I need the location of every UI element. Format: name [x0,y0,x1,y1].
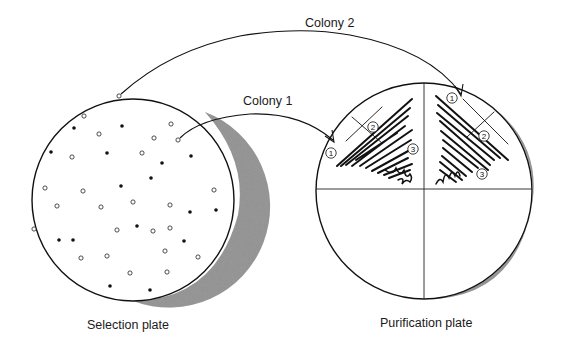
open-colony [176,138,180,142]
svg-text:2: 2 [482,132,487,141]
purification-plate-label: Purification plate [380,316,472,330]
marker-1-colony-2: 1 [447,93,457,103]
open-colony [152,136,156,140]
open-colony [79,256,83,260]
selection-plate [32,94,270,308]
open-colony [115,228,119,232]
open-colony [117,94,121,98]
open-colony [70,155,74,159]
filled-colony [108,284,112,288]
filled-colony [148,288,152,292]
filled-colony [49,150,53,154]
filled-colony [120,124,124,128]
filled-colony [57,238,61,242]
svg-text:3: 3 [411,145,416,154]
open-colony [82,114,86,118]
open-colony [169,122,173,126]
svg-text:1: 1 [450,94,455,103]
open-colony [168,226,172,230]
purification-plate: 1 2 3 1 2 [312,80,540,302]
open-colony [212,188,216,192]
marker-3-colony-1: 3 [408,144,418,154]
open-colony [151,229,155,233]
marker-2-colony-1: 2 [368,122,378,132]
colony-1-label: Colony 1 [243,94,292,108]
marker-1-colony-1: 1 [326,148,336,158]
open-colony [32,227,36,231]
svg-text:3: 3 [480,170,485,179]
open-colony [163,249,167,253]
open-colony [196,255,200,259]
filled-colony [71,238,75,242]
open-colony [168,203,172,207]
filled-colony [214,208,218,212]
open-colony [99,205,103,209]
open-colony [81,189,85,193]
open-colony [55,204,59,208]
open-colony [105,254,109,258]
filled-colony [135,224,139,228]
open-colony [128,271,132,275]
filled-colony [119,184,123,188]
diagram-canvas: 1 2 3 1 2 [0,0,568,353]
diagram-svg: 1 2 3 1 2 [0,0,568,353]
marker-3-colony-2: 3 [477,169,487,179]
open-colony [131,200,135,204]
marker-2-colony-2: 2 [479,131,489,141]
selection-plate-label: Selection plate [87,318,169,332]
filled-colony [72,126,76,130]
svg-text:1: 1 [329,149,334,158]
open-colony [140,151,144,155]
colony-2-label: Colony 2 [305,16,354,30]
svg-text:2: 2 [371,123,376,132]
open-colony [43,186,47,190]
filled-colony [105,151,109,155]
filled-colony [149,176,153,180]
filled-colony [182,239,186,243]
filled-colony [160,161,164,165]
filled-colony [189,154,193,158]
filled-colony [188,210,192,214]
open-colony [165,270,169,274]
open-colony [97,132,101,136]
